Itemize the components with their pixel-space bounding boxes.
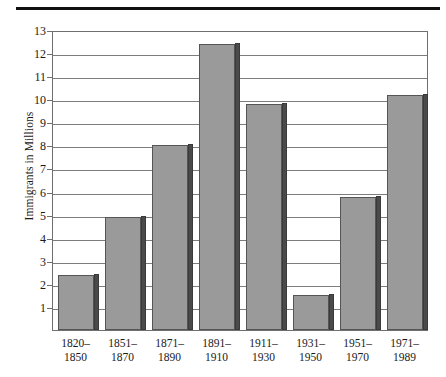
x-axis-tick-label-line: 1951–: [334, 337, 381, 351]
x-axis-tick-label-line: 1890: [146, 351, 193, 365]
bar-side-shadow: [329, 294, 334, 330]
bar: [293, 295, 329, 330]
gridline: [53, 78, 427, 79]
bar-side-shadow: [376, 196, 381, 330]
bar-face: [152, 145, 188, 330]
x-axis-tick-label: 1891–1910: [193, 337, 240, 364]
bar-side-shadow: [282, 103, 287, 330]
x-axis-tick-label-line: 1870: [99, 351, 146, 365]
gridline: [53, 55, 427, 56]
bar-side-shadow: [423, 94, 428, 330]
bar-side-shadow: [141, 216, 146, 330]
x-axis-tick-label-line: 1931–: [287, 337, 334, 351]
bar: [58, 275, 94, 330]
gridline: [53, 170, 427, 171]
x-axis-tick-label: 1911–1930: [240, 337, 287, 364]
x-axis-tick-label-line: 1989: [381, 351, 428, 365]
bar-face: [340, 197, 376, 330]
x-axis-tick-label: 1931–1950: [287, 337, 334, 364]
bar-face: [246, 104, 282, 330]
bar-face: [105, 217, 141, 330]
bar-face: [293, 295, 329, 330]
x-axis-tick-label: 1820–1850: [52, 337, 99, 364]
y-axis-tick-label: 7: [22, 163, 46, 175]
y-axis-tick-label: 5: [22, 210, 46, 222]
bar-side-shadow: [235, 43, 240, 330]
x-axis-tick-label-line: 1971–: [381, 337, 428, 351]
x-axis-tick-label: 1871–1890: [146, 337, 193, 364]
bar-face: [58, 275, 94, 330]
x-axis-tick-label-line: 1850: [52, 351, 99, 365]
x-axis-tick-label-line: 1950: [287, 351, 334, 365]
y-axis-tick-label: 3: [22, 256, 46, 268]
y-axis-tick-label: 9: [22, 117, 46, 129]
x-axis-tick-label: 1951–1970: [334, 337, 381, 364]
x-axis-tick-label: 1851–1870: [99, 337, 146, 364]
y-axis-tick-label: 10: [22, 94, 46, 106]
bar-face: [387, 95, 423, 330]
x-axis-tick-label-line: 1910: [193, 351, 240, 365]
bar: [105, 217, 141, 330]
y-axis-tick-label: 8: [22, 140, 46, 152]
bar-side-shadow: [94, 274, 99, 330]
y-axis-tick-label: 1: [22, 302, 46, 314]
gridline: [53, 147, 427, 148]
y-axis-tick-label: 2: [22, 279, 46, 291]
x-axis-tick-label-line: 1851–: [99, 337, 146, 351]
bar: [246, 104, 282, 330]
y-axis-tick-label: 11: [22, 71, 46, 83]
x-axis-tick-label-line: 1891–: [193, 337, 240, 351]
x-axis-tick-label-line: 1930: [240, 351, 287, 365]
y-axis-tick-label: 6: [22, 187, 46, 199]
immigration-bar-chart-figure: Immigrants in Millions 12345678910111213…: [0, 0, 446, 377]
bar: [387, 95, 423, 330]
bar-face: [199, 44, 235, 330]
y-axis-tick-label: 4: [22, 233, 46, 245]
gridline: [53, 124, 427, 125]
bar: [340, 197, 376, 330]
top-horizontal-rule: [16, 7, 440, 10]
bar: [199, 44, 235, 330]
bar-side-shadow: [188, 144, 193, 330]
x-axis-tick-label-line: 1970: [334, 351, 381, 365]
gridline: [53, 101, 427, 102]
x-axis-tick-label-line: 1871–: [146, 337, 193, 351]
y-axis-tick-label: 13: [22, 25, 46, 37]
gridline: [53, 194, 427, 195]
x-axis-tick-label: 1971–1989: [381, 337, 428, 364]
y-axis-tick-label: 12: [22, 48, 46, 60]
x-axis-tick-label-line: 1820–: [52, 337, 99, 351]
plot-area: [52, 31, 428, 331]
x-axis-tick-label-line: 1911–: [240, 337, 287, 351]
bar: [152, 145, 188, 330]
